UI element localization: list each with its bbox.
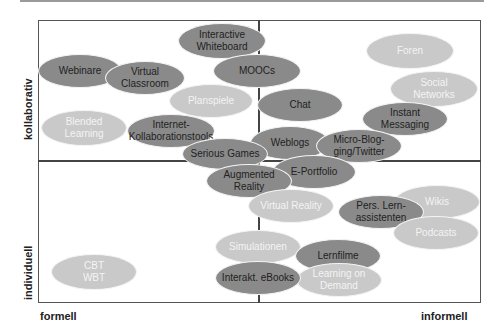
node-label: Lernfilme [314,250,361,262]
node-blended-learning: Blended Learning [41,110,127,146]
node-label: Learning on Demand [310,268,369,292]
node-label: Simulationen [226,241,290,253]
x-axis-label-left: formell [40,310,77,322]
node-virtual-classroom: Virtual Classroom [105,61,185,95]
node-label: Blended Learning [62,116,107,140]
node-chat: Chat [257,88,343,122]
node-label: Foren [394,45,426,57]
node-label: Virtual Classroom [118,66,172,90]
node-label: MOOCs [236,65,278,77]
y-axis-label-bottom: individuell [22,246,34,300]
node-label: Chat [286,99,313,111]
node-interakt-ebooks: Interakt. eBooks [215,261,301,295]
node-label: Augmented Reality [220,169,277,193]
node-moocs: MOOCs [213,54,301,88]
node-virtual-reality: Virtual Reality [248,189,334,223]
node-label: Weblogs [268,137,313,149]
node-podcasts: Podcasts [393,216,479,250]
node-label: Virtual Reality [257,200,325,212]
node-label: Interactive Whiteboard [193,29,250,53]
node-learning-on-demand: Learning on Demand [296,263,382,297]
node-label: Interakt. eBooks [219,272,297,284]
node-label: Serious Games [188,148,263,160]
node-label: E-Portfolio [288,166,341,178]
node-label: CBT WBT [80,260,108,284]
top-rule [20,0,484,2]
node-label: Instant Messaging [378,107,432,131]
node-label: Webinare [56,65,105,77]
node-planspiele: Planspiele [169,84,253,118]
node-label: Wikis [422,196,452,208]
y-axis-label-top: kollaborativ [22,78,34,140]
x-axis-label-right: informell [421,310,467,322]
node-label: Pers. Lern- assistenten [353,200,410,224]
node-label: Planspiele [185,95,237,107]
node-foren: Foren [366,33,454,69]
node-label: Micro-Blog- ging/Twitter [330,134,387,158]
node-simulationen: Simulationen [215,230,301,264]
node-label: Social Networks [410,77,458,101]
node-label: Podcasts [412,227,459,239]
node-cbt-wbt: CBT WBT [51,254,137,290]
